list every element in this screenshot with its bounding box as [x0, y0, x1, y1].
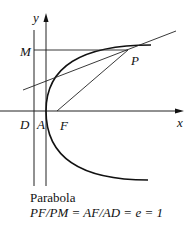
- label-y-axis: y: [33, 11, 39, 24]
- x-axis-arrow-icon: [175, 109, 184, 114]
- label-m: M: [20, 45, 31, 58]
- caption-equation: PF/PM = AF/AD = e = 1: [30, 206, 163, 219]
- label-x-axis: x: [177, 116, 183, 129]
- label-a: A: [37, 118, 45, 131]
- label-p: P: [131, 54, 139, 67]
- parabola-diagram: [0, 0, 192, 226]
- segment-pf: [57, 50, 128, 111]
- label-d: D: [20, 118, 29, 131]
- caption-title: Parabola: [30, 191, 75, 204]
- label-f: F: [60, 119, 68, 132]
- y-axis-arrow-icon: [44, 13, 49, 22]
